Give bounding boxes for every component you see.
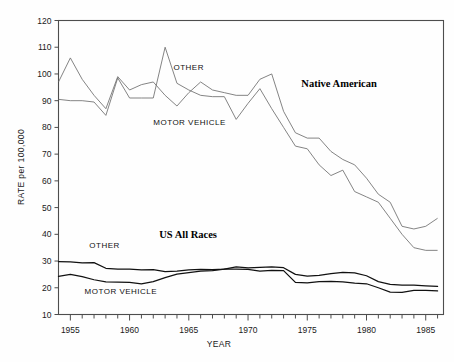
data-series-lines	[59, 47, 438, 292]
y-tick-label: 120	[37, 16, 51, 26]
chart-figure: 102030405060708090100110120 195519601965…	[0, 0, 454, 362]
annotation-motor-vehicle: MOTOR VEHICLE	[153, 118, 226, 127]
y-tick-label: 70	[42, 149, 52, 159]
y-axis-ticks	[55, 21, 59, 315]
y-tick-label: 50	[42, 203, 52, 213]
y-axis-tick-labels: 102030405060708090100110120	[37, 16, 51, 320]
x-tick-label: 1965	[179, 325, 198, 335]
y-tick-label: 100	[37, 69, 51, 79]
annotation-motor-vehicle: MOTOR VEHICLE	[85, 287, 158, 296]
y-tick-label: 60	[42, 176, 52, 186]
x-axis-ticks	[70, 315, 437, 321]
annotation-other: OTHER	[173, 63, 204, 72]
y-tick-label: 80	[42, 122, 52, 132]
series-line-native-american-other	[59, 58, 438, 229]
y-tick-label: 10	[42, 310, 52, 320]
chart-annotations: OTHERMOTOR VEHICLENative AmericanOTHERMO…	[85, 63, 377, 297]
y-tick-label: 40	[42, 229, 52, 239]
x-tick-label: 1985	[416, 325, 435, 335]
x-axis-tick-labels: 1955196019651970197519801985	[61, 325, 436, 335]
series-line-native-american-motor-vehicle	[59, 47, 438, 250]
x-tick-label: 1955	[61, 325, 80, 335]
y-tick-label: 110	[38, 42, 52, 52]
annotation-us-all-races: US All Races	[159, 229, 217, 240]
chart-canvas: 102030405060708090100110120 195519601965…	[0, 0, 454, 362]
annotation-native-american: Native American	[301, 78, 377, 89]
x-tick-label: 1980	[357, 325, 376, 335]
x-axis-title: YEAR	[207, 339, 232, 349]
y-axis-title: RATE per 100,000	[16, 129, 26, 205]
x-tick-label: 1975	[298, 325, 317, 335]
annotation-other: OTHER	[89, 241, 120, 250]
y-tick-label: 90	[42, 96, 52, 106]
x-tick-label: 1970	[239, 325, 258, 335]
y-tick-label: 30	[42, 256, 52, 266]
y-tick-label: 20	[42, 283, 52, 293]
x-tick-label: 1960	[120, 325, 139, 335]
